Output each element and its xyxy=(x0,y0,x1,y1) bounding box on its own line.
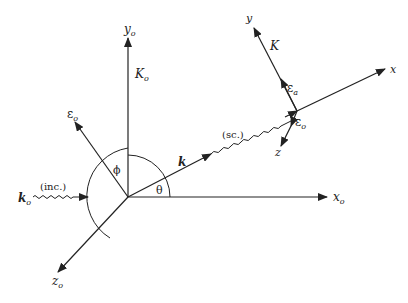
k-label: k xyxy=(178,155,186,169)
eps-o-lab-vector xyxy=(75,122,128,197)
y-o-label: yo xyxy=(123,22,136,38)
incident-wave xyxy=(33,196,83,199)
theta-label: θ xyxy=(156,184,163,197)
phi-arc xyxy=(87,148,128,238)
x-o-label: xo xyxy=(333,190,345,206)
K-label: K xyxy=(269,39,280,53)
y-label: y xyxy=(245,12,253,25)
z-axis xyxy=(281,126,291,146)
z-label: z xyxy=(274,146,281,159)
x-axis xyxy=(297,69,385,111)
K-o-label: Ko xyxy=(134,67,149,83)
eps-o-sc-label: εo xyxy=(295,115,306,131)
scattering-diagram: yo xo zo Ko εo ko (inc.) k (sc.) θ ϕ x y… xyxy=(0,0,408,303)
eps-a-label: εa xyxy=(287,81,298,97)
k-o-label: ko xyxy=(18,191,31,207)
x-label: x xyxy=(390,63,397,76)
phi-to-yo-arc xyxy=(128,155,170,197)
eps-o-lab-label: εo xyxy=(67,107,78,123)
z-o-label: zo xyxy=(51,274,63,290)
inc-tag: (inc.) xyxy=(40,181,66,192)
phi-label: ϕ xyxy=(113,164,121,177)
sc-tag: (sc.) xyxy=(222,129,244,140)
z-o-axis xyxy=(58,197,128,272)
